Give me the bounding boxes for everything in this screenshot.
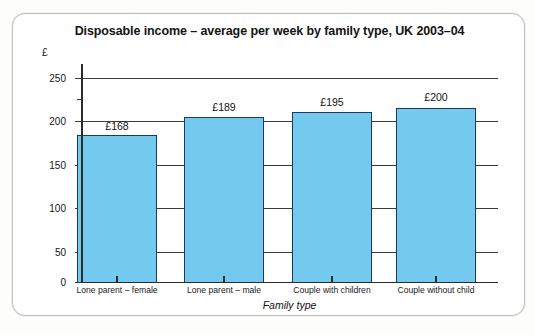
gridline-250	[81, 78, 498, 79]
bar-value-label-4: £200	[396, 91, 476, 103]
ytick-label-200: 200	[26, 117, 66, 127]
ytick-label-100: 100	[26, 204, 66, 214]
category-label-1: Lone parent – female	[57, 285, 177, 295]
ytick-label-250: 250	[26, 74, 66, 84]
ytick-label-50: 50	[26, 248, 66, 258]
bar-value-label-3: £195	[292, 96, 372, 108]
bar-value-label-2: £189	[184, 101, 264, 113]
category-label-4: Couple without child	[376, 285, 496, 295]
x-axis-line	[81, 282, 498, 284]
bar-couple-without-child[interactable]	[396, 108, 476, 284]
bar-lone-parent-female[interactable]	[77, 135, 157, 283]
chart-card: Disposable income – average per week by …	[12, 13, 525, 316]
plot-area: 250 200 150 100 50 0 £168 £	[13, 14, 526, 317]
ytick-label-150: 150	[26, 161, 66, 171]
bar-lone-parent-male[interactable]	[184, 117, 264, 283]
screenshot-root: Disposable income – average per week by …	[0, 0, 535, 335]
category-label-2: Lone parent – male	[164, 285, 284, 295]
y-axis-line	[81, 64, 83, 283]
x-axis-title: Family type	[81, 299, 498, 311]
category-label-3: Couple with children	[272, 285, 392, 295]
bar-couple-with-children[interactable]	[292, 112, 372, 283]
bar-value-label-1: £168	[77, 120, 157, 132]
